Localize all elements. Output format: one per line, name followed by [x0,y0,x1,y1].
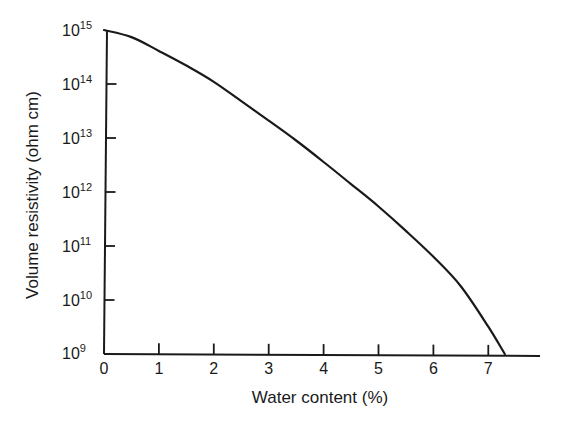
x-axis [104,354,540,356]
y-tick-label: 1014 [62,73,92,93]
x-tick-label: 0 [100,360,109,377]
x-tick-label: 2 [209,360,218,377]
x-tick-label: 4 [319,360,328,377]
y-tick-label: 1010 [62,289,92,309]
chart: 101510141013101210111010109 01234567 Wat… [0,0,564,443]
y-tick-label: 1011 [62,235,91,255]
y-tick-label: 1015 [62,19,92,39]
y-ticks: 101510141013101210111010109 [62,19,117,362]
y-tick-label: 109 [62,342,86,362]
y-axis-label: Volume resistivity (ohm cm) [23,91,42,299]
y-tick-label: 1013 [62,127,92,147]
x-tick-label: 3 [264,360,273,377]
x-tick-label: 1 [154,360,163,377]
y-tick-label: 1012 [62,181,92,201]
x-ticks: 01234567 [100,343,493,377]
resistivity-curve [104,30,505,354]
x-axis-label: Water content (%) [252,388,388,407]
x-tick-label: 7 [484,360,493,377]
x-tick-label: 6 [429,360,438,377]
x-tick-label: 5 [374,360,383,377]
